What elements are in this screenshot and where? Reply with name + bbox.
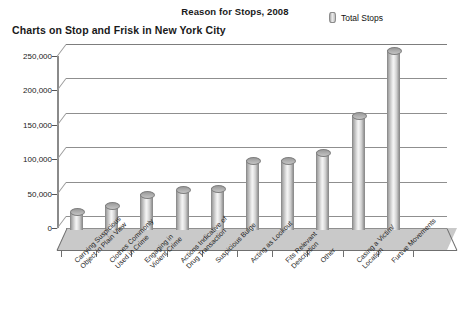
x-axis-tick: [237, 250, 238, 257]
bar: [246, 160, 259, 230]
bar: [176, 190, 189, 230]
chart-legend: Total Stops: [327, 11, 385, 24]
bar: [316, 152, 329, 230]
legend-label-total-stops: Total Stops: [341, 13, 383, 23]
plot-area: 050,000100,000150,000200,000250,000 Carr…: [0, 40, 470, 310]
chart-root: Reason for Stops, 2008 Charts on Stop an…: [0, 0, 470, 310]
bar: [70, 212, 83, 230]
chart-title: Reason for Stops, 2008: [0, 6, 470, 17]
x-axis-tick: [272, 250, 273, 257]
legend-swatch-icon: [329, 12, 336, 23]
chart-subtitle: Charts on Stop and Frisk in New York Cit…: [12, 24, 226, 36]
x-axis-tick: [61, 250, 62, 257]
x-axis-labels: Carrying SuspiciousObject in Plain ViewC…: [0, 40, 470, 140]
x-axis-tick: [343, 250, 344, 257]
x-axis-tick: [413, 250, 414, 257]
